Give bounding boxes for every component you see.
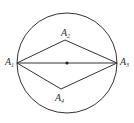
label-a3: A3 [120, 57, 129, 68]
label-a1: A1 [5, 57, 14, 68]
segment-a1-a2 [17, 40, 65, 63]
label-a4-sub: 4 [61, 98, 64, 104]
segment-a1-a4 [17, 63, 61, 89]
label-a2-sub: 2 [67, 33, 70, 39]
label-a1-sub: 1 [11, 62, 14, 68]
label-a2: A2 [61, 28, 70, 39]
label-a4: A4 [55, 93, 64, 104]
segment-a4-a3 [61, 63, 117, 89]
geometry-figure: A1 A2 A3 A4 [0, 0, 134, 123]
figure-canvas [0, 0, 134, 123]
center-point [65, 61, 68, 64]
segment-a2-a3 [65, 40, 117, 63]
label-a3-sub: 3 [126, 62, 129, 68]
